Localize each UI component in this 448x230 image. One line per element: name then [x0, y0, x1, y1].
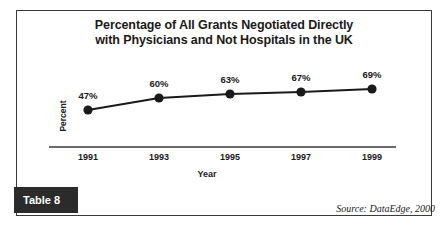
data-label-1997: 67% — [275, 72, 327, 83]
table-number-badge: Table 8 — [14, 187, 78, 213]
x-axis-label: Year — [17, 169, 397, 179]
x-tick-1999: 1999 — [346, 152, 398, 162]
data-point-1995 — [225, 89, 234, 98]
source-note: Source: DataEdge, 2000 — [267, 203, 435, 214]
data-point-1993 — [154, 93, 163, 102]
data-point-1999 — [367, 84, 376, 93]
figure-frame: Percentage of All Grants Negotiated Dire… — [16, 10, 432, 216]
data-label-1991: 47% — [62, 90, 114, 101]
x-tick-1993: 1993 — [133, 152, 185, 162]
data-label-1999: 69% — [346, 69, 398, 80]
x-tick-1991: 1991 — [62, 152, 114, 162]
data-point-1991 — [83, 105, 92, 114]
data-label-1995: 63% — [204, 74, 256, 85]
line-chart-plot — [17, 11, 433, 217]
data-label-1993: 60% — [133, 78, 185, 89]
x-tick-1995: 1995 — [204, 152, 256, 162]
data-point-1997 — [296, 87, 305, 96]
x-tick-1997: 1997 — [275, 152, 327, 162]
